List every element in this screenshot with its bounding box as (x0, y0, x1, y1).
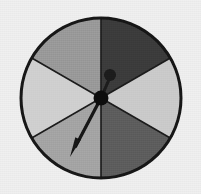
spinner-knob-icon[interactable] (104, 69, 116, 81)
spinner-figure (0, 0, 201, 194)
spinner-wheel-graphic[interactable] (0, 0, 201, 194)
spinner-hub-icon[interactable] (94, 91, 109, 106)
